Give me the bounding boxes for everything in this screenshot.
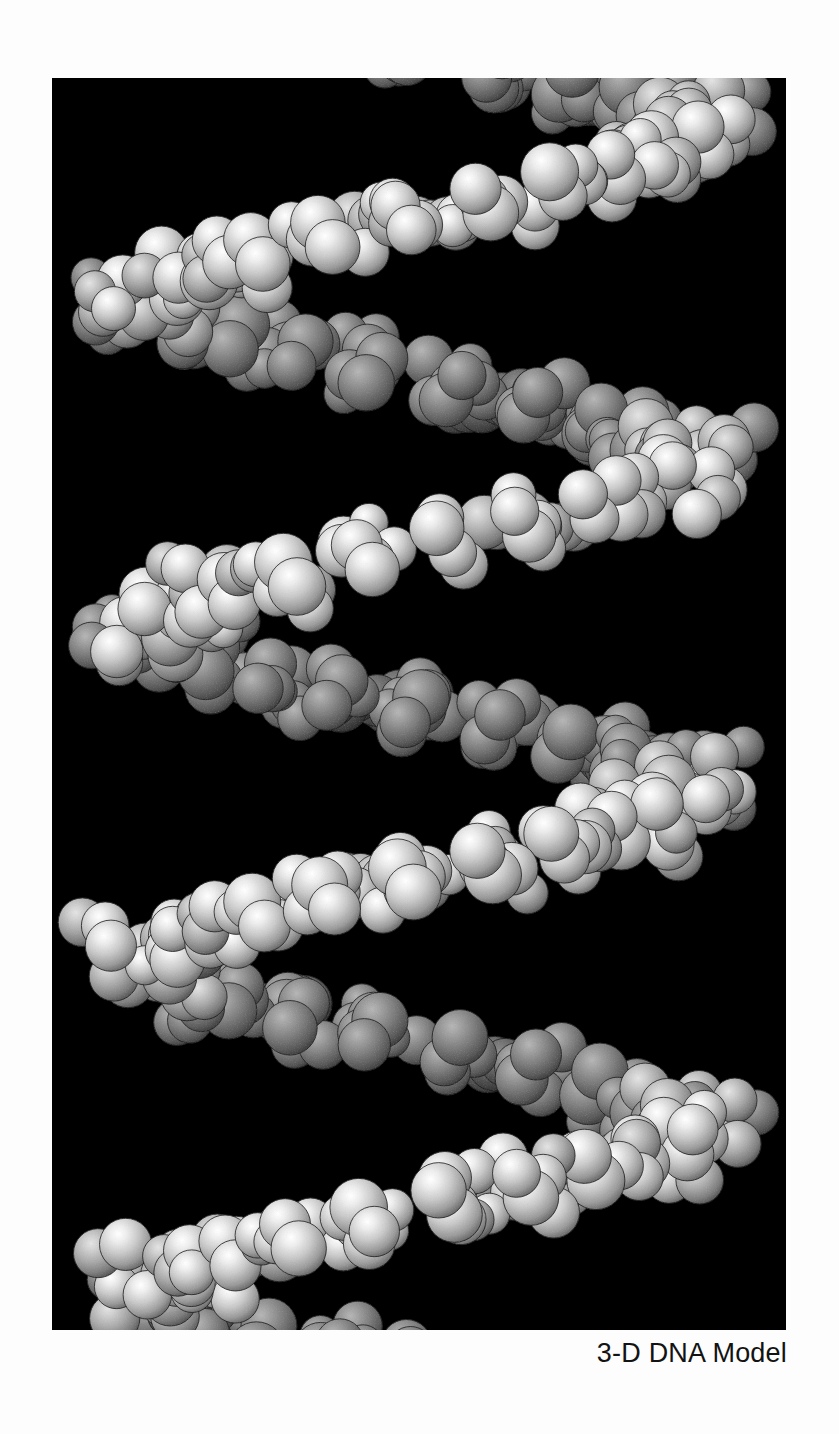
dna-model-image-plate: [52, 78, 786, 1330]
page-canvas: 3-D DNA Model: [0, 0, 839, 1434]
dna-double-helix-render: [52, 78, 786, 1330]
figure-caption: 3-D DNA Model: [0, 1336, 787, 1370]
